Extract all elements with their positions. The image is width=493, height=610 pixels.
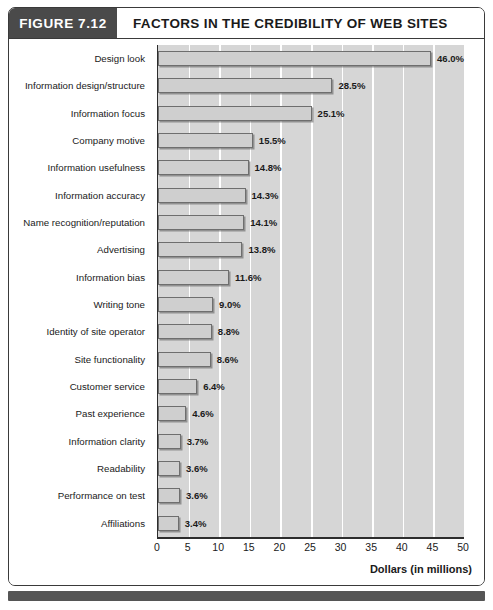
category-label: Site functionality [9,346,151,373]
bar-value-label: 9.0% [219,299,241,310]
category-label: Advertising [9,236,151,263]
bar-value-label: 13.8% [248,244,275,255]
bar-row[interactable]: 11.6% [158,264,464,291]
x-tick-label: 25 [304,541,316,553]
x-axis-title: Dollars (in millions) [370,563,472,575]
bar-row[interactable]: 14.1% [158,209,464,236]
x-tick-label: 40 [396,541,408,553]
bar-value-label: 25.1% [318,108,345,119]
bar-row[interactable]: 6.4% [158,373,464,400]
figure-title-block: FACTORS IN THE CREDIBILITY OF WEB SITES [117,8,484,38]
bar[interactable] [158,516,179,531]
bar-row[interactable]: 28.5% [158,72,464,99]
bar-value-label: 3.6% [186,463,208,474]
bar-row[interactable]: 4.6% [158,400,464,427]
bar[interactable] [158,160,249,175]
x-tick-label: 10 [212,541,224,553]
bar[interactable] [158,461,180,476]
footer-bar [8,591,485,601]
bar[interactable] [158,379,197,394]
bar-row[interactable]: 8.6% [158,346,464,373]
category-label: Information accuracy [9,182,151,209]
x-axis-tick-labels: 05101520253035404550 [157,541,463,557]
bar-row[interactable]: 46.0% [158,45,464,72]
bar-row[interactable]: 25.1% [158,100,464,127]
bar-value-label: 14.1% [250,217,277,228]
bar[interactable] [158,270,229,285]
x-tick-label: 5 [185,541,191,553]
bar[interactable] [158,133,253,148]
bar-value-label: 4.6% [192,408,214,419]
bar-row[interactable]: 8.8% [158,318,464,345]
bar-value-label: 28.5% [338,80,365,91]
bar-row[interactable]: 3.6% [158,482,464,509]
bar-value-label: 46.0% [437,53,464,64]
category-label: Past experience [9,400,151,427]
category-axis-labels: Design lookInformation design/structureI… [9,45,151,537]
category-label: Writing tone [9,291,151,318]
bar-row[interactable]: 3.6% [158,455,464,482]
x-tick-label: 45 [427,541,439,553]
category-label: Information clarity [9,428,151,455]
category-label: Information usefulness [9,154,151,181]
category-label: Affiliations [9,510,151,537]
bar[interactable] [158,297,213,312]
bar-row[interactable]: 13.8% [158,236,464,263]
plot-area: 46.0%28.5%25.1%15.5%14.8%14.3%14.1%13.8%… [157,45,464,539]
x-tick-label: 35 [365,541,377,553]
bar-value-label: 8.8% [218,326,240,337]
bar[interactable] [158,78,332,93]
bar[interactable] [158,406,186,421]
bar[interactable] [158,434,181,449]
bar[interactable] [158,51,431,66]
figure-frame: FIGURE 7.12 FACTORS IN THE CREDIBILITY O… [8,7,485,586]
category-label: Performance on test [9,482,151,509]
x-tick-label: 20 [274,541,286,553]
category-label: Company motive [9,127,151,154]
category-label: Design look [9,45,151,72]
bar-value-label: 3.4% [185,518,207,529]
figure-title: FACTORS IN THE CREDIBILITY OF WEB SITES [133,16,448,31]
figure-number-label: FIGURE 7.12 [19,16,107,31]
category-label: Identity of site operator [9,318,151,345]
bar[interactable] [158,106,312,121]
bar-value-label: 3.6% [186,490,208,501]
bar-row[interactable]: 3.7% [158,428,464,455]
x-tick-label: 50 [457,541,469,553]
bar-value-label: 14.3% [252,190,279,201]
bar[interactable] [158,188,246,203]
x-tick-label: 0 [154,541,160,553]
x-tick-label: 15 [243,541,255,553]
figure-header: FIGURE 7.12 FACTORS IN THE CREDIBILITY O… [9,8,484,39]
bar[interactable] [158,242,242,257]
bar[interactable] [158,324,212,339]
category-label: Customer service [9,373,151,400]
bar-row[interactable]: 14.8% [158,154,464,181]
category-label: Information focus [9,100,151,127]
bar-value-label: 14.8% [255,162,282,173]
bar[interactable] [158,352,211,367]
category-label: Name recognition/reputation [9,209,151,236]
bar-value-label: 15.5% [259,135,286,146]
category-label: Readability [9,455,151,482]
bars-layer: 46.0%28.5%25.1%15.5%14.8%14.3%14.1%13.8%… [158,45,464,537]
bar-row[interactable]: 9.0% [158,291,464,318]
bar-row[interactable]: 15.5% [158,127,464,154]
bar-value-label: 11.6% [235,272,261,283]
figure-number-block: FIGURE 7.12 [9,8,117,38]
chart-body: Design lookInformation design/structureI… [9,39,484,585]
bar[interactable] [158,488,180,503]
bar-value-label: 6.4% [203,381,225,392]
bar[interactable] [158,215,244,230]
category-label: Information bias [9,264,151,291]
bar-value-label: 8.6% [217,354,239,365]
bar-row[interactable]: 3.4% [158,510,464,537]
x-tick-label: 30 [335,541,347,553]
gridline [464,45,466,537]
bar-row[interactable]: 14.3% [158,182,464,209]
category-label: Information design/structure [9,72,151,99]
bar-value-label: 3.7% [187,436,209,447]
